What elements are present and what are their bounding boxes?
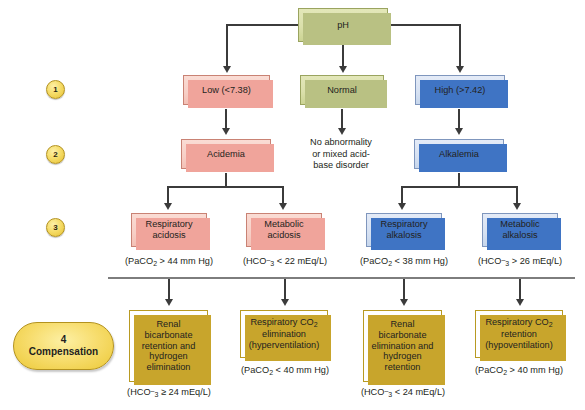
node-respiratory-acidosis-line1: Respiratory (146, 219, 193, 229)
step-badge-3: 3 (46, 218, 65, 237)
comp1-line3: retention and (142, 341, 196, 351)
criterion-compensation-2: (PaCO2 < 40 mm Hg) (229, 365, 341, 378)
node-alkalemia: Alkalemia (414, 139, 504, 169)
node-metabolic-alkalosis-line1: Metabolic (500, 219, 539, 229)
node-metabolic-acidosis-line1: Metabolic (264, 219, 303, 229)
connector-ph-left-horizontal (226, 24, 299, 26)
criterion-compensation-4-suffix: > 40 mm Hg) (507, 365, 563, 375)
criterion-respiratory-alkalosis-suffix: < 38 mm Hg) (392, 256, 448, 266)
connector-ph-left-vertical (226, 24, 228, 66)
node-compensation-resp-co2-retention-label: Respiratory CO2 retention (hypoventilati… (483, 317, 554, 351)
note-no-abnormality-line3: base disorder (291, 160, 391, 172)
comp2-line1-sub: 2 (314, 321, 318, 328)
node-respiratory-alkalosis: Respiratory alkalosis (366, 213, 442, 247)
comp4-line3: (hypoventilation) (485, 340, 552, 350)
criterion-compensation-3: (HCO–3 < 24 mEq/L) (347, 387, 459, 400)
criterion-compensation-3-suffix: < 24 mEq/L) (392, 387, 445, 397)
comp3-line2: bicarbonate (378, 330, 426, 340)
node-acidemia: Acidemia (181, 139, 271, 169)
arrow-low-to-acidemia (222, 128, 230, 135)
node-respiratory-alkalosis-label: Respiratory alkalosis (379, 219, 430, 241)
comp1-line1: Renal (156, 319, 180, 329)
connector-alkalemia-left-drop (401, 186, 403, 203)
connector-comp-1 (168, 279, 170, 299)
comp3-line4: hydrogen (383, 351, 421, 361)
criterion-respiratory-acidosis: (PaCO2 > 44 mm Hg) (113, 256, 225, 269)
node-metabolic-acidosis: Metabolic acidosis (246, 213, 322, 247)
connector-ph-right-vertical (459, 24, 461, 66)
arrow-alkalemia-to-metab-alkalosis (513, 203, 521, 210)
node-compensation-resp-co2-retention: Respiratory CO2 retention (hypoventilati… (475, 310, 563, 358)
node-compensation-renal-elimination: Renal bicarbonate elimination and hydrog… (363, 310, 442, 382)
connector-comp-4 (519, 279, 521, 299)
criterion-respiratory-acidosis-suffix: > 44 mm Hg) (157, 256, 213, 266)
arrow-comp-3 (400, 299, 408, 306)
arrow-ph-to-low (223, 66, 231, 73)
node-low-ph: Low (<7.38) (183, 75, 270, 105)
connector-ph-right-horizontal (388, 24, 461, 26)
connector-acidemia-stem (225, 173, 227, 186)
arrow-high-to-alkalemia (455, 128, 463, 135)
arrow-acidemia-to-resp-acidosis (164, 203, 172, 210)
comp1-line5: elimination (147, 362, 191, 372)
step-badge-1-number: 1 (53, 85, 57, 94)
note-no-abnormality-line2: or mixed acid- (291, 149, 391, 161)
comp4-line1-sub: 2 (549, 321, 553, 328)
node-ph-label: pH (335, 20, 351, 31)
connector-acidemia-right-drop (282, 186, 284, 203)
node-respiratory-acidosis: Respiratory acidosis (131, 213, 207, 247)
criterion-respiratory-alkalosis-prefix: (PaCO (360, 256, 388, 266)
arrow-normal-down (338, 128, 346, 135)
comp1-line2: bicarbonate (144, 330, 192, 340)
node-acidemia-label: Acidemia (205, 149, 247, 160)
criterion-compensation-2-prefix: (PaCO (241, 365, 269, 375)
connector-alkalemia-stem (458, 173, 460, 186)
connector-normal-down (341, 109, 343, 128)
connector-comp-2 (284, 279, 286, 299)
node-low-ph-label: Low (<7.38) (200, 85, 253, 96)
node-high-ph-label: High (>7.42) (433, 85, 488, 96)
arrow-ph-to-high (456, 66, 464, 73)
criterion-compensation-2-suffix: < 40 mm Hg) (273, 365, 329, 375)
criterion-metabolic-acidosis: (HCO–3 < 22 mEq/L) (229, 256, 341, 269)
step-badge-2-number: 2 (53, 150, 57, 159)
compensation-number: 4 (61, 334, 67, 347)
criterion-metabolic-alkalosis-suffix: > 26 mEq/L) (509, 256, 562, 266)
node-respiratory-acidosis-label: Respiratory acidosis (144, 219, 195, 241)
note-no-abnormality: No abnormality or mixed acid- base disor… (291, 137, 391, 172)
node-compensation-resp-co2-elimination-label: Respiratory CO2 elimination (hyperventil… (247, 317, 321, 351)
arrow-ph-to-normal (339, 66, 347, 73)
node-metabolic-alkalosis-line2: alkalosis (502, 230, 537, 240)
node-normal-ph-label: Normal (325, 85, 359, 96)
compensation-label: Compensation (29, 346, 98, 359)
node-compensation-renal-elimination-label: Renal bicarbonate elimination and hydrog… (370, 319, 436, 373)
node-respiratory-acidosis-line2: acidosis (152, 230, 185, 240)
node-ph: pH (298, 8, 388, 42)
criterion-compensation-1: (HCO–3 ≥ 24 mEq/L) (113, 387, 225, 400)
criterion-compensation-4-prefix: (PaCO (475, 365, 503, 375)
comp1-line4: hydrogen (149, 351, 187, 361)
criterion-compensation-1-suffix: ≥ 24 mEq/L) (158, 387, 211, 397)
comp3-line3: elimination and (372, 341, 434, 351)
connector-alkalemia-bar (401, 186, 518, 188)
node-metabolic-acidosis-line2: acidosis (267, 230, 300, 240)
flowchart-canvas: 1 2 3 4 Compensation pH Low (<7.38) Norm… (0, 0, 585, 410)
connector-high-to-alkalemia (458, 109, 460, 128)
comp2-line3: (hyperventilation) (249, 340, 319, 350)
compensation-marker: 4 Compensation (13, 322, 114, 370)
connector-comp-3 (403, 279, 405, 299)
node-high-ph: High (>7.42) (415, 75, 505, 105)
node-metabolic-acidosis-label: Metabolic acidosis (262, 219, 305, 241)
node-respiratory-alkalosis-line1: Respiratory (381, 219, 428, 229)
criterion-respiratory-acidosis-prefix: (PaCO (125, 256, 153, 266)
comp3-line1: Renal (390, 319, 414, 329)
comp4-line1: Respiratory CO (485, 317, 548, 327)
section-divider (108, 277, 575, 279)
node-respiratory-alkalosis-line2: alkalosis (386, 230, 421, 240)
comp2-line2: elimination (262, 329, 306, 339)
node-metabolic-alkalosis-label: Metabolic alkalosis (498, 219, 541, 241)
arrow-comp-4 (516, 299, 524, 306)
arrow-comp-1 (165, 299, 173, 306)
connector-ph-middle-vertical (342, 42, 344, 66)
note-no-abnormality-line1: No abnormality (291, 137, 391, 149)
